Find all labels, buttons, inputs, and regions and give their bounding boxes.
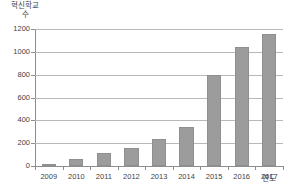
bar <box>179 127 193 166</box>
y-tick-label: 1000 <box>0 47 30 56</box>
y-tick-label: 800 <box>0 70 30 79</box>
bar <box>124 148 138 166</box>
x-tick-label: 2010 <box>61 172 91 181</box>
x-tick-label: 2013 <box>144 172 174 181</box>
bar <box>152 139 166 166</box>
x-tick-mark <box>90 166 91 170</box>
x-tick-label: 2009 <box>34 172 64 181</box>
x-tick-mark <box>283 166 284 170</box>
bar <box>207 75 221 166</box>
x-tick-mark <box>173 166 174 170</box>
bar <box>235 47 249 166</box>
x-tick-mark <box>118 166 119 170</box>
x-tick-label: 2016 <box>227 172 257 181</box>
x-tick-label: 2014 <box>172 172 202 181</box>
x-tick-mark <box>63 166 64 170</box>
y-tick-label: 400 <box>0 115 30 124</box>
x-axis-line <box>35 166 283 167</box>
x-axis-title: 연도 <box>262 172 288 183</box>
bar <box>69 159 83 166</box>
bar <box>42 164 56 166</box>
x-tick-label: 2012 <box>116 172 146 181</box>
y-axis-title-line1: 혁신학교 <box>11 1 38 10</box>
y-axis-title: 혁신학교 수 <box>2 2 48 19</box>
x-tick-mark <box>200 166 201 170</box>
y-axis-title-line2: 수 <box>2 11 48 20</box>
x-tick-label: 2015 <box>199 172 229 181</box>
y-tick-label: 600 <box>0 93 30 102</box>
y-tick-label: 0 <box>0 161 30 170</box>
x-tick-mark <box>145 166 146 170</box>
bar <box>97 153 111 166</box>
bar-chart: 혁신학교 수 020040060080010001200 20092010201… <box>0 0 290 193</box>
y-tick-label: 1200 <box>0 24 30 33</box>
plot-area <box>35 29 283 166</box>
y-tick-label: 200 <box>0 138 30 147</box>
x-tick-mark <box>228 166 229 170</box>
x-tick-label: 2011 <box>89 172 119 181</box>
x-tick-mark <box>35 166 36 170</box>
x-tick-mark <box>255 166 256 170</box>
bar <box>262 34 276 166</box>
